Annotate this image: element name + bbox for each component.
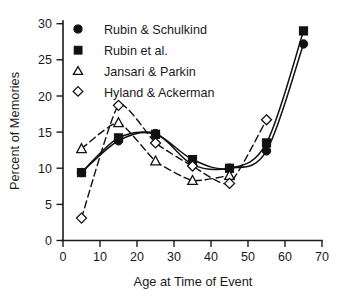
filled-square-icon <box>74 46 82 54</box>
filled-square-marker <box>114 134 122 142</box>
filled-square-marker <box>77 168 85 176</box>
y-tick-label-0: 0 <box>45 234 52 248</box>
legend-item-3[interactable]: Hyland & Ackerman <box>73 86 214 100</box>
filled-square-marker <box>299 27 307 35</box>
filled-circle-icon <box>74 25 82 33</box>
y-tick-label-5: 5 <box>45 198 52 212</box>
y-tick-labels: 0 5 10 15 20 25 30 <box>38 17 52 248</box>
legend-label-0: Rubin & Schulkind <box>104 23 207 37</box>
series-line-3 <box>82 105 267 219</box>
x-tick-label-70: 70 <box>315 250 329 264</box>
open-diamond-marker <box>77 213 87 223</box>
x-tick-labels: 0 10 20 30 40 50 60 70 <box>60 250 329 264</box>
x-axis-title: Age at Time of Event <box>134 274 253 289</box>
x-tick-label-40: 40 <box>204 250 218 264</box>
x-tick-label-0: 0 <box>60 250 67 264</box>
x-tick-label-10: 10 <box>93 250 107 264</box>
series-3 <box>77 100 272 223</box>
series-2 <box>77 118 235 185</box>
y-tick-marks <box>57 24 64 241</box>
legend-label-2: Jansari & Parkin <box>104 65 196 79</box>
open-diamond-marker <box>114 100 124 110</box>
chart-figure: 0 5 10 15 20 25 30 Percent of Memories <box>0 0 352 301</box>
legend-label-3: Hyland & Ackerman <box>104 86 215 100</box>
x-tick-label-50: 50 <box>241 250 255 264</box>
y-tick-label-20: 20 <box>38 90 52 104</box>
y-tick-label-25: 25 <box>38 53 52 67</box>
line-chart: 0 5 10 15 20 25 30 Percent of Memories <box>0 0 352 301</box>
y-axis-title: Percent of Memories <box>7 72 22 190</box>
y-tick-label-15: 15 <box>38 126 52 140</box>
x-tick-label-20: 20 <box>130 250 144 264</box>
legend: Rubin & Schulkind Rubin et al. Jansari &… <box>73 23 214 100</box>
y-tick-label-10: 10 <box>38 162 52 176</box>
axis-x: 0 10 20 30 40 50 60 70 Age at Time of Ev… <box>60 241 329 290</box>
x-tick-label-30: 30 <box>167 250 181 264</box>
axis-y: 0 5 10 15 20 25 30 Percent of Memories <box>7 17 63 248</box>
open-diamond-icon <box>73 87 83 97</box>
y-tick-label-30: 30 <box>38 17 52 31</box>
open-triangle-marker <box>114 118 124 127</box>
open-triangle-marker <box>77 144 87 153</box>
filled-square-marker <box>262 139 270 147</box>
legend-label-1: Rubin et al. <box>104 44 168 58</box>
legend-item-2[interactable]: Jansari & Parkin <box>73 65 195 79</box>
x-tick-marks <box>63 241 322 248</box>
x-tick-label-60: 60 <box>278 250 292 264</box>
open-diamond-marker <box>262 115 272 125</box>
open-triangle-icon <box>73 67 82 75</box>
legend-item-1[interactable]: Rubin et al. <box>74 44 168 58</box>
legend-item-0[interactable]: Rubin & Schulkind <box>74 23 207 37</box>
